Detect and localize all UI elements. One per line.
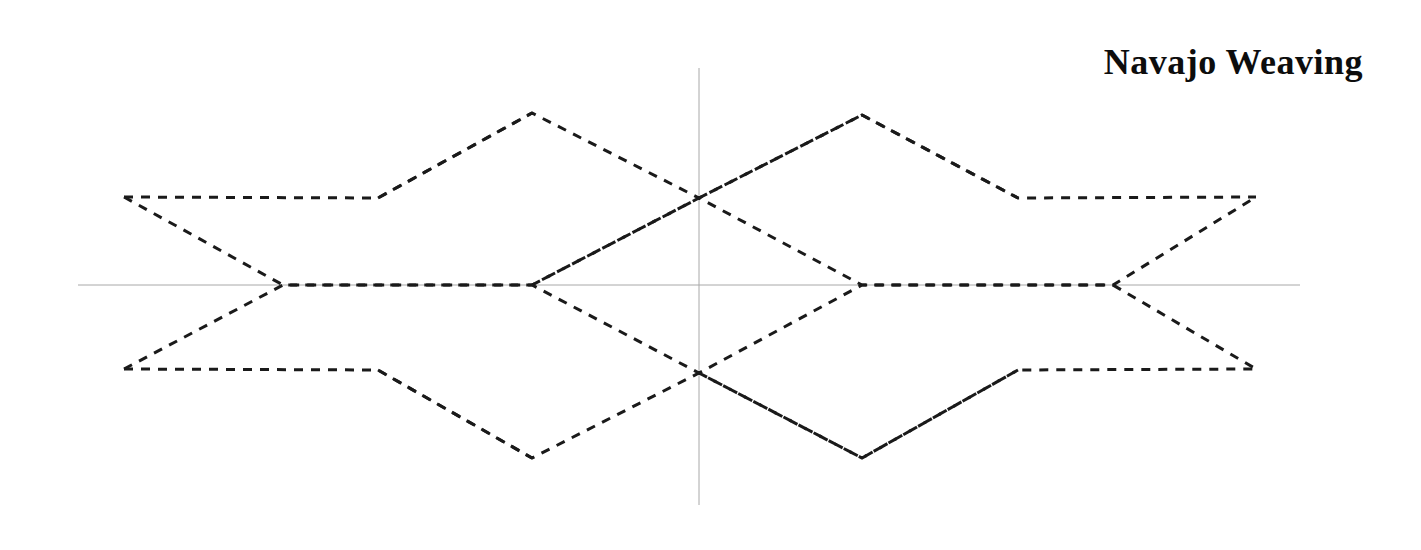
pattern-path-diamond2-right-upper-edge [862, 115, 1018, 198]
pattern-path-upper-left-hexagon-band [124, 113, 1256, 198]
pattern-path-upper-inner-zigzag [124, 197, 1256, 285]
pattern-path-diamond2-lower-edges [699, 370, 1018, 458]
pattern-path-lower-left-hexagon-band [124, 369, 1256, 458]
weaving-pattern-svg [0, 0, 1421, 550]
navajo-weaving-figure-page: Navajo Weaving [0, 0, 1421, 550]
pattern-path-diamond1-right-lower-edge [532, 198, 699, 285]
pattern-path-diamond2-left-upper-edge [699, 115, 862, 198]
pattern-path-lower-inner-zigzag [124, 285, 1256, 373]
